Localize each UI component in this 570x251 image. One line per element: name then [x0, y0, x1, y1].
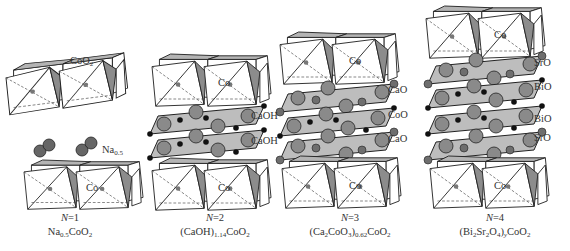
coo2-slab-top: [6, 51, 128, 116]
label-coo2: CoO2: [70, 56, 93, 68]
label-cao-1: CaO: [388, 85, 407, 96]
panel-n4: [424, 6, 549, 208]
label-co-n3-top: Co: [349, 56, 361, 67]
panel-n1: [6, 51, 143, 210]
label-sro-1: SrO: [534, 58, 551, 69]
coo2-slab-top: [152, 54, 271, 106]
coo2-slab-bottom: [152, 158, 271, 210]
caption-n3-formula: (Ca2CoO3)0.62CoO2: [290, 225, 410, 242]
label-co-n2-bottom: Co: [218, 183, 230, 194]
caption-n1: N=1 Na0.5CoO2: [30, 211, 110, 242]
caption-n1-formula: Na0.5CoO2: [30, 225, 110, 242]
bio-layer-2: [425, 103, 545, 137]
coo2-slab-bottom: [24, 160, 143, 209]
label-co-n3-bottom: Co: [349, 181, 361, 192]
panel-n3: [276, 32, 401, 208]
label-caoh-1: CaOH: [251, 111, 278, 122]
label-caoh-2: CaOH: [251, 136, 278, 147]
label-co-n2-top: Co: [218, 78, 230, 89]
label-sro-2: SrO: [534, 133, 551, 144]
label-co-n4-top: Co: [494, 30, 506, 41]
label-co-n4-bottom: Co: [494, 181, 506, 192]
coo2-slab-top: [426, 6, 545, 58]
caption-n4: N=4 (Bi2Sr2O4)yCoO2: [435, 211, 555, 242]
coo2-slab-bottom: [282, 156, 401, 208]
coo2-slab-bottom: [430, 156, 549, 208]
na-atoms: [34, 137, 97, 157]
label-bio-1: BiO: [534, 82, 552, 93]
label-bio-2: BiO: [534, 114, 552, 125]
caption-n2: N=2 (CaOH)1.14CoO2: [160, 211, 270, 242]
caption-n2-n: N=2: [160, 211, 270, 225]
label-coo: CoO: [388, 110, 408, 121]
caption-n4-n: N=4: [435, 211, 555, 225]
panel-n2: [147, 54, 271, 210]
caption-n3-n: N=3: [290, 211, 410, 225]
label-na: Na0.5: [102, 145, 123, 157]
label-co-n1: Co: [86, 183, 98, 194]
caption-n4-formula: (Bi2Sr2O4)yCoO2: [435, 225, 555, 242]
coo2-slab-top: [280, 32, 399, 84]
caption-n1-n: N=1: [30, 211, 110, 225]
caption-n3: N=3 (Ca2CoO3)0.62CoO2: [290, 211, 410, 242]
caption-n2-formula: (CaOH)1.14CoO2: [160, 225, 270, 242]
label-cao-2: CaO: [388, 134, 407, 145]
